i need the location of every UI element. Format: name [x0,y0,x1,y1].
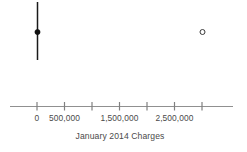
x-tick-label-2500000: 2,500,000 [155,113,193,123]
x-tick-label-0: 0 [35,113,40,123]
outlier-open-circle-marker [200,30,205,35]
x-tick-label-500000: 500,000 [49,113,80,123]
errorbar-center-marker [35,29,40,34]
x-axis-title: January 2014 Charges [76,131,165,142]
x-tick-label-1500000: 1,500,000 [100,113,138,123]
errorbar-series [35,2,40,60]
chart-canvas [0,0,247,152]
outlier-series [200,30,205,35]
chart-figure: 0 500,000 1,500,000 2,500,000 January 20… [0,0,247,152]
